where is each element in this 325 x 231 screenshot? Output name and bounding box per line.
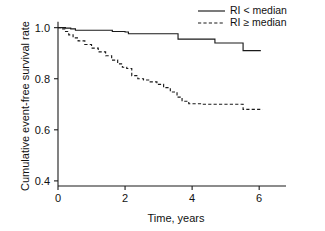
y-axis-title: Cumulative event-free survival rate (19, 21, 31, 191)
chart-canvas: 1.00.80.60.4 0246 Time, years Cumulative… (0, 0, 325, 231)
x-tick-label: 4 (189, 192, 195, 204)
y-tick-label: 0.8 (35, 73, 50, 85)
chart-legend: RI < medianRI ≥ median (198, 4, 287, 28)
x-tick-label: 2 (122, 192, 128, 204)
y-tick-label: 0.6 (35, 124, 50, 136)
survival-chart-figure: 1.00.80.60.4 0246 Time, years Cumulative… (0, 0, 325, 231)
x-axis-title: Time, years (147, 212, 205, 224)
series-curves (58, 28, 263, 110)
y-tick-labels: 1.00.80.60.4 (35, 22, 50, 187)
x-tick-label: 6 (256, 192, 262, 204)
survival-curve-2 (58, 28, 263, 110)
y-tick-marks (54, 28, 58, 181)
legend-label-1: RI < median (230, 4, 287, 16)
y-axis-group: 1.00.80.60.4 (35, 22, 58, 187)
x-axis-group: 0246 (55, 186, 286, 204)
y-tick-label: 1.0 (35, 22, 50, 34)
survival-curve-1 (58, 28, 261, 51)
legend-label-2: RI ≥ median (230, 16, 287, 28)
y-tick-label: 0.4 (35, 175, 50, 187)
x-tick-labels: 0246 (55, 192, 262, 204)
x-tick-label: 0 (55, 192, 61, 204)
x-tick-marks (58, 186, 259, 190)
